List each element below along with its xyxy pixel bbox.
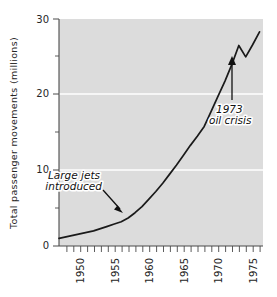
x-tick-label-1965: 1965	[179, 258, 190, 283]
chart-figure: 0 10 20 30 Total passenger movements (mi…	[0, 0, 277, 297]
x-tick-label-1975: 1975	[248, 258, 259, 283]
y-axis-ticks	[53, 19, 59, 246]
large-jets-line2: introduced	[45, 180, 102, 192]
y-tick-label-20: 20	[36, 88, 49, 99]
x-tick-label-1955: 1955	[110, 258, 121, 283]
x-axis-ticks	[67, 246, 260, 252]
passenger-movements-line-chart: 0 10 20 30 Total passenger movements (mi…	[0, 0, 277, 297]
oil-crisis-line2: oil crisis	[209, 114, 252, 126]
x-tick-label-1970: 1970	[213, 258, 224, 283]
x-tick-label-1960: 1960	[144, 258, 155, 283]
x-tick-label-1950: 1950	[75, 258, 86, 283]
y-tick-label-30: 30	[36, 14, 49, 25]
plot-area-background	[59, 19, 263, 246]
y-axis-title: Total passenger movements (millions)	[8, 37, 19, 230]
y-tick-label-0: 0	[43, 240, 49, 251]
